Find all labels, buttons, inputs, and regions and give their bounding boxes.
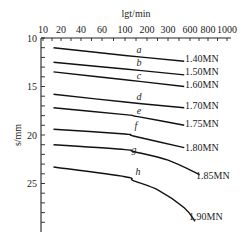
load-label-a: 1.40MN bbox=[185, 53, 219, 64]
curve-f bbox=[54, 129, 185, 147]
curve-d bbox=[54, 94, 185, 108]
curve-letter-e: e bbox=[137, 105, 142, 116]
curves bbox=[54, 48, 200, 222]
curve-letter-c: c bbox=[137, 70, 142, 81]
x-tick-label: 300 bbox=[161, 24, 176, 35]
load-label-c: 1.60MN bbox=[185, 79, 219, 90]
curve-letter-b: b bbox=[137, 57, 142, 68]
x-axis-title: lgt/min bbox=[122, 8, 151, 19]
load-label-h: 1.90MN bbox=[189, 211, 223, 222]
y-tick-label: 20 bbox=[27, 130, 37, 141]
load-label-d: 1.70MN bbox=[185, 100, 219, 111]
curve-e bbox=[54, 108, 185, 126]
x-tick-label: 60 bbox=[97, 24, 107, 35]
x-tick-label: 1000 bbox=[217, 24, 237, 35]
curve-a bbox=[54, 48, 185, 62]
curve-letter-d: d bbox=[137, 91, 143, 102]
curve-letter-a: a bbox=[137, 44, 142, 55]
load-label-b: 1.50MN bbox=[185, 66, 219, 77]
load-label-g: 1.85MN bbox=[196, 170, 230, 181]
curve-letter-f: f bbox=[135, 120, 139, 131]
x-tick-label: 100 bbox=[118, 24, 133, 35]
curve-b bbox=[54, 62, 185, 75]
load-label-f: 1.80MN bbox=[185, 142, 219, 153]
x-tick-label: 20 bbox=[56, 24, 66, 35]
curve-letter-g: g bbox=[132, 144, 137, 155]
x-tick-label: 800 bbox=[201, 24, 216, 35]
x-tick-label: 600 bbox=[183, 24, 198, 35]
y-axis-title: s/mm bbox=[12, 124, 23, 146]
curve-c bbox=[54, 72, 185, 87]
labels: lgt/mins/mma1.40MNb1.50MNc1.60MNd1.70MNe… bbox=[12, 8, 230, 222]
y-tick-label: 10 bbox=[27, 33, 37, 44]
settlement-time-chart: 10204060100200300600800100010152025 lgt/… bbox=[0, 0, 243, 242]
curve-letter-h: h bbox=[136, 166, 141, 177]
load-label-e: 1.75MN bbox=[185, 118, 219, 129]
curve-h bbox=[54, 167, 196, 221]
x-tick-label: 40 bbox=[76, 24, 86, 35]
y-tick-label: 15 bbox=[27, 81, 37, 92]
y-tick-label: 25 bbox=[27, 178, 37, 189]
x-tick-label: 10 bbox=[38, 24, 48, 35]
x-tick-label: 200 bbox=[140, 24, 155, 35]
